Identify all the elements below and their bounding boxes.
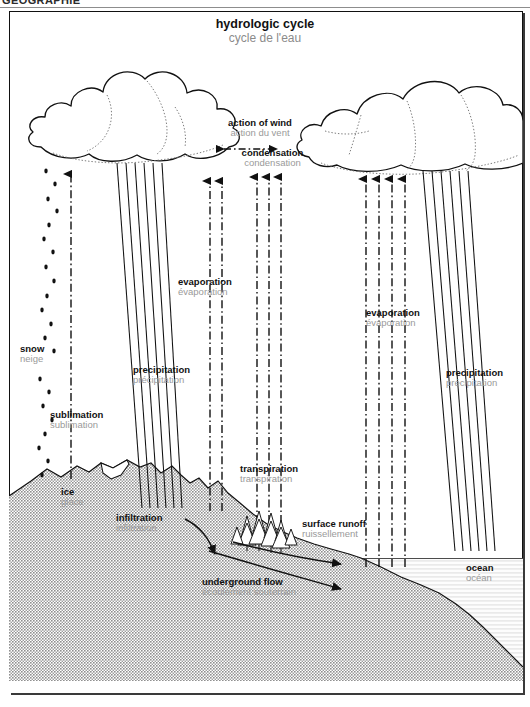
rain-streaks-right (423, 171, 495, 551)
label-evaporation-left-fr: évaporation (178, 287, 232, 297)
header-divider-rule (0, 7, 530, 8)
label-evaporation-right-fr: évaporation (366, 318, 420, 328)
label-underground-flow: underground flow écoulement souterrain (202, 577, 296, 598)
evaporation-arrows-left (210, 181, 222, 511)
label-snow-fr: neige (20, 354, 44, 364)
cloud-right (297, 82, 523, 175)
label-sublimation-fr: sublimation (50, 420, 103, 430)
label-condensation-fr: condensation (215, 158, 330, 168)
label-precipitation-right-fr: précipitation (446, 378, 503, 388)
snow-fall-dots (37, 169, 58, 478)
label-infiltration-fr: infiltration (116, 523, 162, 533)
cloud-left-body (29, 72, 240, 161)
frame-shadow-bottom (11, 693, 525, 695)
rain-streaks-left (117, 163, 182, 508)
label-action-of-wind-fr: action du vent (200, 128, 320, 138)
evaporation-arrows-right (366, 179, 405, 567)
cloud-right-body (297, 82, 523, 172)
frame-bottom-gutter (9, 681, 523, 692)
label-action-of-wind: action of wind action du vent (200, 118, 320, 139)
label-precipitation-left-fr: précipitation (133, 375, 190, 385)
label-ocean: ocean océan (466, 563, 493, 584)
label-infiltration: infiltration infiltration (116, 513, 162, 534)
label-condensation: condensation condensation (215, 148, 330, 169)
label-ice-fr: glace (61, 497, 84, 507)
label-ice: ice glace (61, 487, 84, 508)
label-surface-runoff: surface runoff ruissellement (302, 519, 366, 540)
label-evaporation-left: evaporation évaporation (178, 277, 232, 298)
label-snow: snow neige (20, 344, 44, 365)
label-ocean-fr: océan (466, 573, 493, 583)
label-surface-runoff-fr: ruissellement (302, 529, 366, 539)
label-evaporation-right: evaporation évaporation (366, 308, 420, 329)
label-underground-flow-fr: écoulement souterrain (202, 587, 296, 597)
label-precipitation-left: precipitation précipitation (133, 365, 190, 386)
label-sublimation: sublimation sublimation (50, 410, 103, 431)
label-transpiration-fr: transpiration (240, 474, 298, 484)
section-header-label: GEOGRAPHIE (2, 0, 81, 6)
frame-shadow-right (523, 13, 525, 694)
diagram-page: GEOGRAPHIE hydrologic cycle cycle de l'e… (0, 0, 530, 707)
label-precipitation-right: precipitation précipitation (446, 368, 503, 389)
label-transpiration: transpiration transpiration (240, 464, 298, 485)
